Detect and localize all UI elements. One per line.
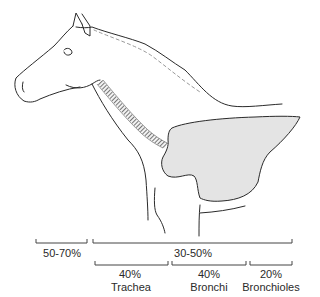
trachea-percent: 40% xyxy=(119,268,141,281)
bracket-lower-airway xyxy=(93,239,292,243)
bronchi-percent: 40% xyxy=(198,268,220,281)
bracket-trachea xyxy=(95,261,168,265)
lungs xyxy=(162,116,300,201)
bracket-bronchi xyxy=(172,261,246,265)
bracket-bronchioles xyxy=(250,261,292,265)
bracket-upper-airway xyxy=(36,239,87,243)
upper-airway-percent: 50-70% xyxy=(43,247,81,260)
bronchioles-label: Bronchioles xyxy=(242,281,299,294)
bronchioles-percent: 20% xyxy=(260,268,282,281)
lower-airway-percent: 30-50% xyxy=(174,247,212,260)
trachea-label: Trachea xyxy=(111,281,151,294)
bronchi-label: Bronchi xyxy=(190,281,227,294)
